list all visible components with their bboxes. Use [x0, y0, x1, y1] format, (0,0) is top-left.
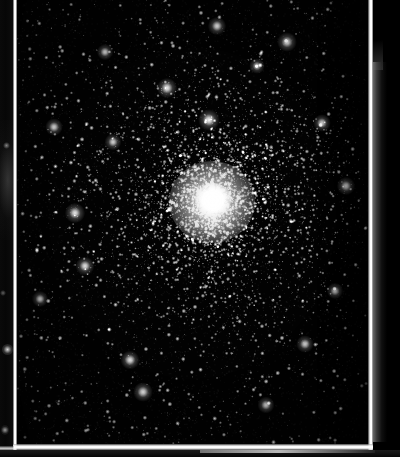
plate-blemish-c: [3, 142, 10, 149]
plate-margin-strip: [373, 62, 387, 442]
plate-margin-glow: [0, 120, 13, 240]
plate-bottom-edge-highlight: [200, 450, 375, 453]
frame-line-right: [368, 0, 373, 452]
plate-blemish-d: [0, 290, 6, 296]
plate-blemish-a: [2, 344, 13, 355]
sky-field: [17, 0, 368, 444]
plate-margin-left: [0, 0, 14, 457]
plate-scan-root: [0, 0, 400, 457]
frame-line-left: [13, 0, 17, 452]
cluster-core-peak: [195, 183, 231, 217]
plate-blemish-b: [1, 425, 9, 435]
